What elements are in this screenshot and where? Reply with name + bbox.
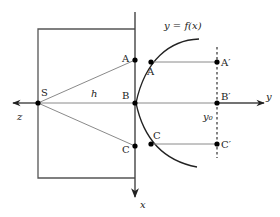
label-A-curve: A bbox=[146, 66, 155, 77]
label-z-axis: z bbox=[16, 111, 23, 122]
point-C-curve bbox=[148, 141, 153, 146]
point-B bbox=[132, 100, 137, 105]
label-A-prime: A′ bbox=[220, 57, 231, 68]
label-y0: y₀ bbox=[202, 111, 213, 122]
point-A-prime bbox=[214, 59, 219, 64]
label-B-prime: B′ bbox=[221, 91, 231, 102]
point-B-prime bbox=[214, 100, 219, 105]
label-h: h bbox=[91, 88, 97, 99]
label-C-prime: C′ bbox=[221, 139, 232, 150]
point-S bbox=[35, 100, 40, 105]
label-B: B bbox=[122, 90, 129, 101]
label-y-axis: y bbox=[265, 91, 272, 102]
point-A-curve bbox=[148, 59, 153, 64]
label-S: S bbox=[41, 87, 48, 98]
point-C-prime bbox=[214, 141, 219, 146]
label-C: C bbox=[122, 144, 130, 155]
curve-label: y = f(x) bbox=[163, 20, 202, 31]
label-x-axis: x bbox=[140, 199, 146, 210]
geometry-diagram: y = f(x) S h A B C A C A′ B′ C′ y₀ y z x bbox=[0, 0, 280, 217]
label-C-curve: C bbox=[153, 130, 161, 141]
ray-SA bbox=[38, 60, 135, 103]
ray-SC bbox=[38, 103, 135, 146]
label-A: A bbox=[121, 53, 130, 64]
point-C bbox=[132, 143, 137, 148]
point-A bbox=[132, 57, 137, 62]
